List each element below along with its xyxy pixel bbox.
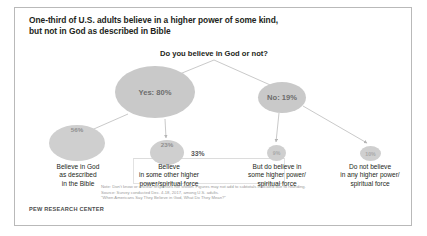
bubble-yes[interactable]: Yes: 80% xyxy=(115,66,195,118)
label-believe-bible-line-1: Believe in God xyxy=(37,163,119,171)
label-but-do-believe-line-2: some higher power/ xyxy=(230,171,324,179)
label-believe-bible-line-2: as described xyxy=(37,171,119,179)
figure-frame: One-third of U.S. adults believe in a hi… xyxy=(14,7,412,226)
bubble-but-do-believe[interactable]: 9% xyxy=(267,145,286,161)
label-but-do-believe-line-1: But do believe in xyxy=(230,163,324,171)
bubble-no[interactable]: No: 19% xyxy=(258,82,306,113)
bubble-other-higher-power-percent: 23% xyxy=(161,141,173,163)
bubble-other-higher-power[interactable]: 23% xyxy=(150,140,184,165)
bubble-yes-label: Yes: 80% xyxy=(139,88,172,97)
label-other-higher-power-line-1: Believe xyxy=(123,163,215,171)
bubble-no-label: No: 19% xyxy=(267,93,297,102)
label-other-higher-power-line-2: in some other higher xyxy=(123,171,215,179)
bubble-do-not-believe-percent: 10% xyxy=(365,151,375,157)
bubble-but-do-believe-percent: 9% xyxy=(273,150,281,156)
bracket-33-value-label: 33% xyxy=(191,150,205,157)
bubble-believe-bible[interactable]: 56% xyxy=(49,125,105,161)
bubble-believe-bible-percent: 56% xyxy=(71,126,83,158)
label-do-not-believe-line-2: in any higher power/ xyxy=(327,171,412,179)
bubble-do-not-believe[interactable]: 10% xyxy=(360,146,381,161)
label-do-not-believe-line-1: Do not believe xyxy=(327,163,412,171)
footnotes: Note: Don't know or unclear responses no… xyxy=(101,184,401,201)
pew-research-center-credit: PEW RESEARCH CENTER xyxy=(29,206,104,212)
footnote-report-title: "When Americans Say They Believe in God,… xyxy=(101,195,401,201)
